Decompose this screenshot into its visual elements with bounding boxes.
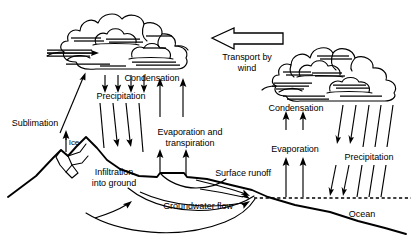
evaporation-transpiration-arrows — [157, 149, 190, 176]
cloud-right-icon — [262, 48, 396, 101]
condensation-right-arrows — [283, 111, 307, 130]
label-precipitation-left: Precipitation — [97, 91, 146, 102]
label-transport-by-wind: Transport by wind — [222, 52, 272, 73]
condensation-left-arrows — [157, 78, 187, 117]
evaporation-right-arrows — [283, 157, 307, 197]
precipitation-left-arrows-lower — [100, 103, 143, 152]
label-condensation-right: Condensation — [269, 103, 324, 114]
label-evaporation-and-transpiration: Evaporation and transpiration — [158, 127, 223, 148]
label-groundwater-flow: Groundwater flow — [163, 201, 233, 212]
cloud-left-icon — [47, 14, 188, 69]
label-infiltration-into-ground: Infiltration into ground — [92, 167, 137, 188]
label-precipitation-right: Precipitation — [345, 152, 394, 163]
label-condensation-left: Condensation — [125, 73, 180, 84]
precipitation-right-arrows-upper — [336, 105, 394, 147]
label-evaporation-right: Evaporation — [271, 144, 318, 155]
transport-wind-arrow-icon — [212, 28, 283, 49]
label-ocean: Ocean — [349, 209, 375, 220]
label-surface-runoff: Surface runoff — [215, 168, 271, 179]
water-cycle-diagram: Condensation Precipitation Evaporation a… — [0, 0, 413, 249]
label-sublimation: Sublimation — [12, 118, 58, 129]
label-ice: Ice — [69, 138, 80, 149]
precipitation-right-arrows-lower — [329, 165, 386, 197]
